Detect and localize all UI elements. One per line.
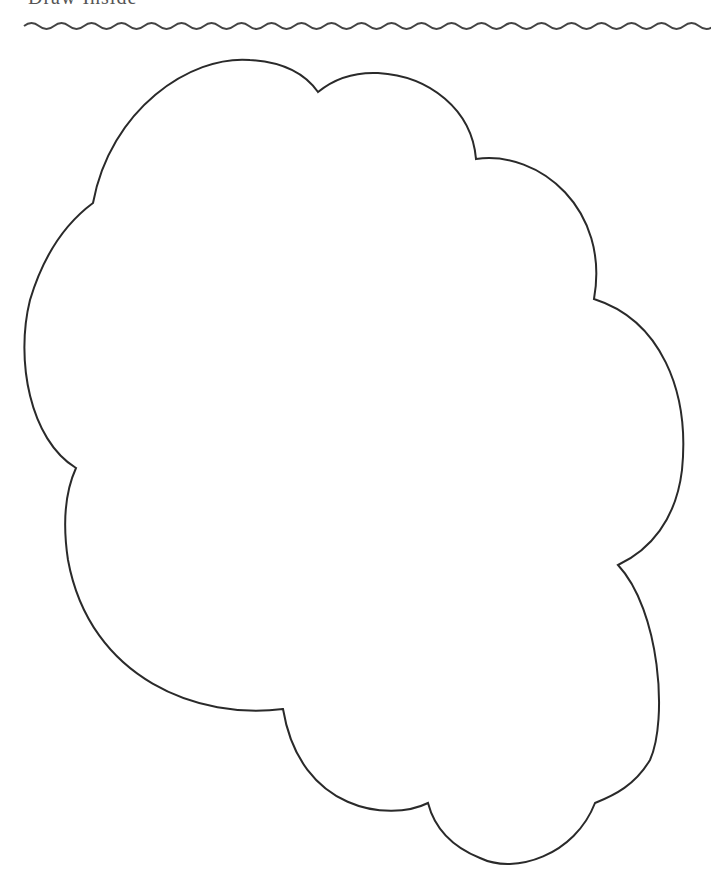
cloud-outline-shape: [0, 0, 711, 885]
